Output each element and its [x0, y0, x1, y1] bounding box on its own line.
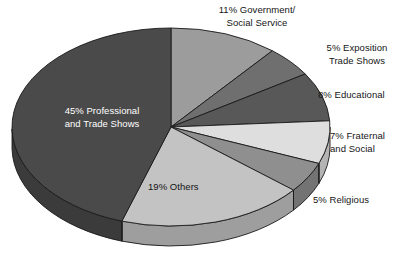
slice-label-government-social-service: 11% Government/ Social Service — [193, 4, 321, 29]
slice-label-others: 19% Others — [148, 181, 238, 194]
slice-label-fraternal-and-social: 7% Fraternal and Social — [330, 130, 416, 155]
slice-label-exposition-trade-shows: 5% Exposition Trade Shows — [298, 42, 416, 67]
slice-label-religious: 5% Religious — [313, 194, 413, 207]
slice-label-professional-and-trade-shows: 45% Professional and Trade Shows — [38, 105, 166, 130]
pie-chart: 11% Government/ Social Service 5% Exposi… — [0, 0, 419, 255]
slice-label-educational: 8% Educational — [318, 89, 416, 102]
